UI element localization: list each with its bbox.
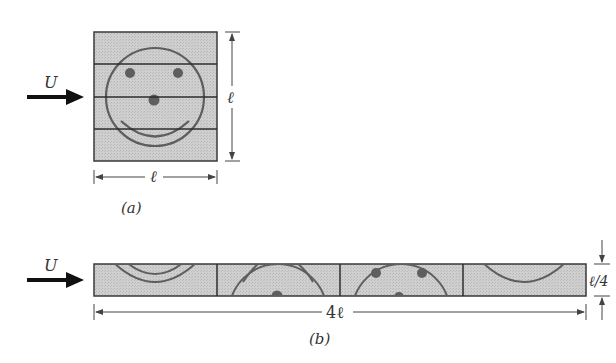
nose (149, 95, 160, 106)
flow-label-a: U (44, 73, 58, 92)
flow-label-b: U (44, 256, 58, 275)
caption-b: (b) (309, 330, 330, 348)
height-label-a: ℓ (227, 88, 234, 107)
width-label-a: ℓ (150, 167, 157, 186)
left-eye (125, 68, 135, 78)
left-eye-b (371, 268, 381, 278)
nose-b (272, 291, 283, 302)
right-eye-b (417, 268, 427, 278)
length-label-b: 4ℓ (326, 303, 344, 322)
caption-a: (a) (121, 199, 142, 217)
panel-a: U ℓ ℓ (27, 32, 240, 217)
right-eye (173, 68, 183, 78)
height-label-b: ℓ/4 (589, 273, 608, 289)
diagram: U ℓ ℓ (0, 0, 616, 363)
panel-b: U (27, 240, 610, 362)
